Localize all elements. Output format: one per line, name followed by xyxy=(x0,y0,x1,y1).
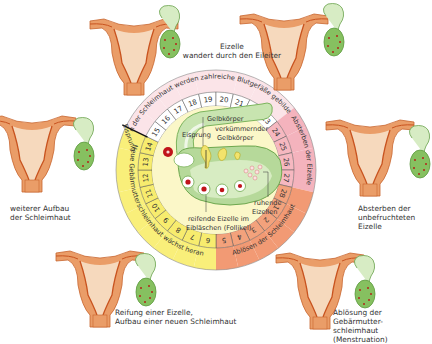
caption-left: weiterer Aufbau der Schleimhaut xyxy=(10,204,71,222)
caption-right-line1: Absterben der xyxy=(358,204,415,213)
day-number: 27 xyxy=(282,173,291,183)
caption-bottom-left-line2: Aufbau einer neuen Schleimhaut xyxy=(115,317,236,326)
caption-bottom-right-line1: Ablösung der Gebärmutter- xyxy=(333,308,432,326)
label-maturing-2: Eibläschen (Follikel) xyxy=(186,224,251,232)
caption-top-line1: Eizelle xyxy=(172,42,292,51)
caption-bottom-left-line1: Reifung einer Eizelle, xyxy=(115,308,236,317)
stage-right xyxy=(326,120,430,196)
label-ovulation: Eisprung xyxy=(182,131,211,139)
stage-top xyxy=(90,6,180,96)
label-degenerating-2: Gelbkörper xyxy=(217,134,254,142)
caption-left-line1: weiterer Aufbau xyxy=(10,204,71,213)
label-resting-1: ruhende xyxy=(254,199,282,207)
caption-right-line2: unbefruchteten xyxy=(358,213,415,222)
label-maturing-1: reifende Eizelle im xyxy=(188,215,249,223)
label-corpus-luteum: Gelbkörper xyxy=(207,115,244,123)
caption-left-line2: der Schleimhaut xyxy=(10,213,71,222)
caption-right-line3: Eizelle xyxy=(358,222,415,231)
caption-top-line2: wandert durch den Eileiter xyxy=(172,51,292,60)
label-resting-2: Eizellen xyxy=(252,208,277,216)
day-number: 20 xyxy=(219,95,229,104)
caption-bottom-left: Reifung einer Eizelle, Aufbau einer neue… xyxy=(115,308,236,326)
caption-bottom-right: Ablösung der Gebärmutter- schleimhaut (M… xyxy=(333,308,432,344)
caption-top: Eizelle wandert durch den Eileiter xyxy=(172,42,292,60)
caption-right: Absterben der unbefruchteten Eizelle xyxy=(358,204,415,231)
stage-left xyxy=(0,116,94,192)
day-number: 5 xyxy=(221,236,226,244)
day-number: 12 xyxy=(141,173,150,183)
day-number: 19 xyxy=(203,95,213,104)
caption-bottom-right-line2: schleimhaut (Menstruation) xyxy=(333,326,432,344)
day-number: 13 xyxy=(141,157,150,167)
day-number: 26 xyxy=(282,157,291,167)
label-degenerating-1: verkümmernder xyxy=(215,125,268,133)
